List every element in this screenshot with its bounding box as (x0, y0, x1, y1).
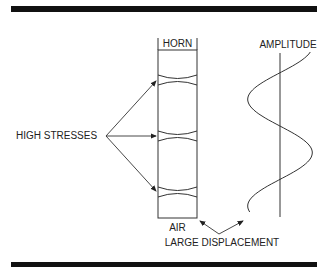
stress-node-top (158, 75, 197, 85)
horn-label: HORN (163, 38, 192, 49)
high-stress-arrow-top (106, 81, 156, 136)
high-stresses-label: HIGH STRESSES (16, 130, 97, 141)
figure-caption-cropped (11, 269, 317, 275)
horn-stress-diagram: HORN AIR HIGH STRESSES AMPLITUDE LARGE D… (0, 0, 333, 275)
air-label: AIR (169, 222, 186, 233)
large-displacement-arrow-wave (219, 221, 243, 234)
stress-node-middle (158, 131, 197, 141)
large-displacement-arrow-air (200, 221, 219, 234)
amplitude-label: AMPLITUDE (259, 39, 317, 50)
bottom-rule (11, 262, 317, 267)
stress-node-bottom (158, 187, 197, 197)
high-stress-arrow-bottom (106, 136, 156, 191)
large-displacement-label: LARGE DISPLACEMENT (165, 237, 279, 248)
